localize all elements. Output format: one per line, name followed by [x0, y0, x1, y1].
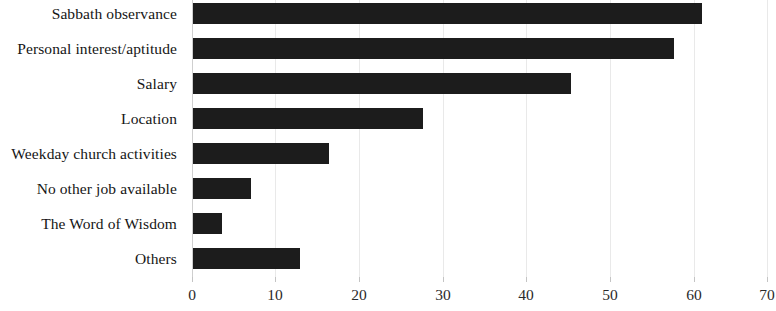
- category-label: Others: [1, 250, 177, 267]
- category-label: Sabbath observance: [1, 5, 177, 22]
- tick-mark: [275, 277, 276, 282]
- bar: [193, 143, 329, 164]
- gridline: [694, 0, 695, 277]
- bar: [193, 178, 251, 199]
- category-label: Personal interest/aptitude: [1, 40, 177, 57]
- gridline: [767, 0, 768, 277]
- bar: [193, 213, 222, 234]
- bar: [193, 248, 300, 269]
- tick-label: 30: [435, 286, 451, 304]
- tick-label: 0: [188, 286, 196, 304]
- tick-mark: [443, 277, 444, 282]
- tick-mark: [359, 277, 360, 282]
- category-axis-labels: Sabbath observance Personal interest/apt…: [0, 0, 185, 277]
- tick-label: 60: [686, 286, 702, 304]
- bar: [193, 3, 702, 24]
- tick-label: 10: [267, 286, 283, 304]
- bar-chart: Sabbath observance Personal interest/apt…: [0, 0, 776, 311]
- tick-mark: [192, 277, 193, 282]
- category-label: The Word of Wisdom: [1, 215, 177, 232]
- tick-label: 40: [518, 286, 534, 304]
- plot-area: [192, 0, 768, 277]
- value-axis: 0 10 20 30 40 50 60 70: [192, 277, 768, 311]
- tick-mark: [767, 277, 768, 282]
- category-label: Location: [1, 110, 177, 127]
- category-label: Salary: [1, 75, 177, 92]
- tick-label: 50: [602, 286, 618, 304]
- bar: [193, 73, 571, 94]
- bar: [193, 38, 674, 59]
- category-label: No other job available: [1, 180, 177, 197]
- tick-mark: [526, 277, 527, 282]
- tick-mark: [694, 277, 695, 282]
- bar: [193, 108, 423, 129]
- category-label: Weekday church activities: [1, 145, 177, 162]
- tick-label: 70: [759, 286, 775, 304]
- tick-mark: [610, 277, 611, 282]
- tick-label: 20: [351, 286, 367, 304]
